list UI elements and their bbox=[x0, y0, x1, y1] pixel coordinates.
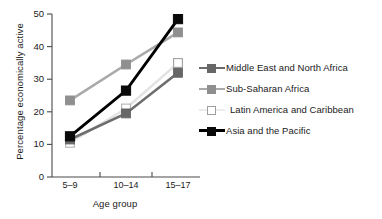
chart-figure: 50 40 30 20 10 0 5–9 10–14 15–17 Percent… bbox=[0, 0, 382, 219]
y-tick-label-0: 0 bbox=[22, 171, 44, 182]
x-tick-marks bbox=[100, 172, 152, 177]
y-tick-marks bbox=[47, 14, 52, 177]
plot-area: 50 40 30 20 10 0 5–9 10–14 15–17 Percent… bbox=[0, 0, 200, 219]
chart-legend: Middle East and North Africa Sub-Saharan… bbox=[199, 57, 382, 141]
legend-label: Latin America and Caribbean bbox=[225, 104, 354, 115]
legend-label: Sub-Saharan Africa bbox=[225, 83, 309, 94]
y-tick-label-10: 10 bbox=[22, 138, 44, 149]
legend-label: Middle East and North Africa bbox=[225, 62, 348, 73]
x-tick-label-15-17: 15–17 bbox=[155, 180, 201, 190]
legend-swatch-middle-east-and-north-africa bbox=[199, 62, 225, 74]
series-asia-and-the-pacific bbox=[65, 15, 182, 141]
legend-item-middle-east-and-north-africa[interactable]: Middle East and North Africa bbox=[199, 57, 382, 78]
legend-label: Asia and the Pacific bbox=[225, 125, 310, 136]
y-axis-title: Percentage economically active bbox=[14, 7, 25, 177]
y-tick-label-30: 30 bbox=[22, 73, 44, 84]
legend-item-latin-america-and-caribbean[interactable]: Latin America and Caribbean bbox=[199, 99, 382, 120]
x-tick-label-5-9: 5–9 bbox=[47, 180, 93, 190]
legend-swatch-sub-saharan-africa bbox=[199, 83, 225, 95]
legend-swatch-latin-america-and-caribbean bbox=[199, 104, 225, 116]
legend-item-asia-and-the-pacific[interactable]: Asia and the Pacific bbox=[199, 120, 382, 141]
y-tick-label-20: 20 bbox=[22, 106, 44, 117]
x-tick-label-10-14: 10–14 bbox=[103, 180, 149, 190]
legend-swatch-asia-and-the-pacific bbox=[199, 125, 225, 137]
legend-item-sub-saharan-africa[interactable]: Sub-Saharan Africa bbox=[199, 78, 382, 99]
y-tick-label-40: 40 bbox=[22, 41, 44, 52]
x-axis-title: Age group bbox=[40, 198, 190, 209]
y-tick-label-50: 50 bbox=[22, 8, 44, 19]
